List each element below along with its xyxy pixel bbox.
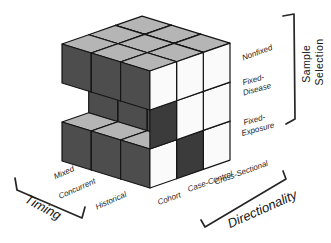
cube-1-0-0-left-face — [91, 53, 120, 101]
sample-selection-axis-bracket — [283, 14, 295, 124]
cube-0-0-2-left-face — [62, 122, 91, 170]
tick-concurrent: Concurrent — [57, 176, 98, 201]
tick-nonfixed: Nonfixed — [241, 43, 274, 62]
sample-selection-axis-title: Sample Selection — [300, 39, 325, 86]
sample-selection-axis-title-line1: Sample — [300, 45, 312, 83]
study-design-cube-figure: Mixed Concurrent Historical Cohort Case-… — [0, 0, 331, 243]
tick-fixed-disease: Fixed- Disease — [239, 71, 272, 97]
cube-2-0-0-left-face — [121, 62, 150, 110]
tick-fixed-exposure: Fixed- Exposure — [238, 111, 276, 138]
tick-cohort: Cohort — [156, 190, 182, 207]
sample-selection-axis-title-line2: Selection — [313, 39, 325, 86]
cube-0-0-0-left-face — [62, 44, 91, 92]
tick-historical: Historical — [94, 190, 128, 212]
cube-2-0-2-left-face — [121, 140, 150, 188]
tick-mixed: Mixed — [52, 164, 76, 181]
figure-canvas: Mixed Concurrent Historical Cohort Case-… — [0, 0, 331, 243]
cube-1-0-2-left-face — [91, 131, 120, 179]
cube-3d — [62, 16, 230, 188]
